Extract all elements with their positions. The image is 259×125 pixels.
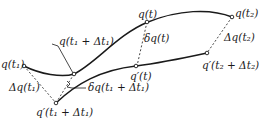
actual-path-curve (24, 11, 232, 75)
label-delta-q-t: δq(t) (144, 33, 169, 44)
label-q-t1: q(t₁) (1, 59, 24, 70)
label-Delta-q-t1: Δq(t₁) (9, 82, 40, 93)
label-qp-t2-dt2: q′(t₂ + Δt₂) (202, 60, 259, 71)
label-q-t1-dt1: q(t₁ + Δt₁) (59, 36, 114, 47)
delta-q-t1-dt1-connector (56, 74, 74, 103)
point-qp-t2-dt2 (205, 51, 209, 55)
label-delta-q-t1-dt1: δq(t₁ + Δt₁) (88, 82, 149, 93)
label-qp-t: q′(t) (130, 71, 152, 82)
label-Delta-q-t2: Δq(t₂) (224, 32, 255, 43)
point-q-t2 (230, 15, 234, 19)
q-t1-dt1-leader (52, 44, 73, 73)
label-qp-t1-dt1: q′(t₁ + Δt₁) (36, 107, 93, 118)
trajectory-variation-diagram: q(t₁) q(t₁ + Δt₁) q(t) q(t₂) δq(t) q′(t)… (0, 0, 259, 125)
delta-q-t-connector (137, 22, 147, 66)
point-qp-t1-dt1 (54, 101, 58, 105)
point-q-t (145, 20, 149, 24)
label-q-t2: q(t₂) (235, 8, 258, 19)
point-qp-t (134, 64, 138, 68)
point-q-t1-dt1 (72, 72, 76, 76)
label-q-t: q(t) (138, 9, 157, 20)
